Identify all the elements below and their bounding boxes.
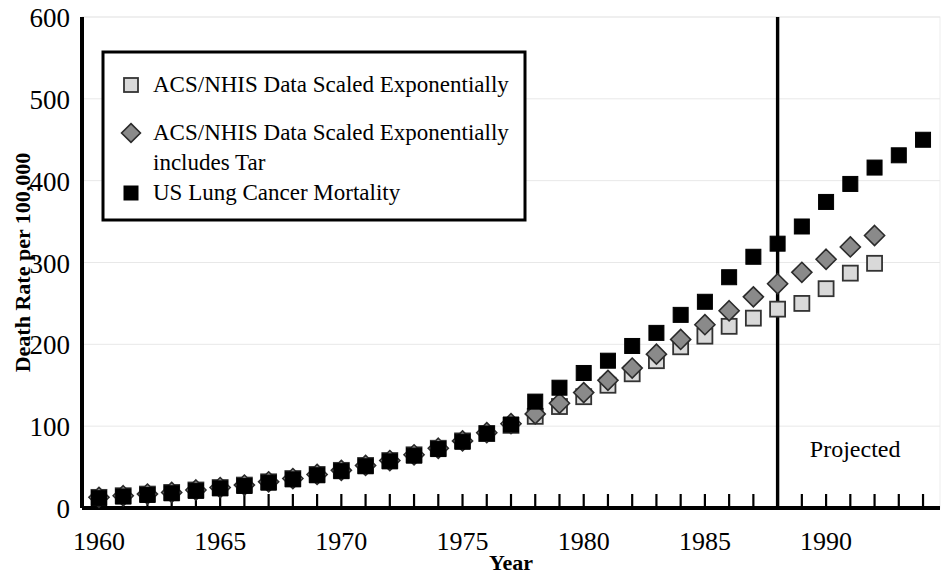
data-point-square bbox=[188, 483, 203, 498]
data-point-square bbox=[479, 426, 494, 441]
x-axis-tick-label: 1965 bbox=[194, 527, 246, 556]
data-point-square bbox=[310, 468, 325, 483]
data-point-square bbox=[261, 475, 276, 490]
scatter-chart: 0100200300400500600Death Rate per 100,00… bbox=[0, 0, 947, 574]
data-point-square bbox=[625, 338, 640, 353]
y-axis-tick-label: 100 bbox=[30, 412, 71, 442]
data-point-square bbox=[431, 442, 446, 457]
y-axis-tick-label: 600 bbox=[30, 3, 71, 33]
data-point-diamond bbox=[768, 274, 788, 294]
data-point-diamond bbox=[719, 301, 739, 321]
x-axis-tick-label: 1975 bbox=[437, 527, 489, 556]
projected-label: Projected bbox=[810, 436, 901, 462]
data-point-square bbox=[649, 325, 664, 340]
x-axis-tick-label: 1990 bbox=[800, 527, 852, 556]
data-point-square bbox=[213, 481, 228, 496]
x-axis-tick-label: 1985 bbox=[679, 527, 731, 556]
y-axis-tick-label: 0 bbox=[57, 494, 71, 524]
x-axis-tick-label: 1970 bbox=[315, 527, 367, 556]
data-point-square bbox=[382, 454, 397, 469]
data-point-square bbox=[891, 148, 906, 163]
x-axis-tick-label: 1980 bbox=[558, 527, 610, 556]
data-point-square bbox=[552, 380, 567, 395]
data-point-diamond bbox=[743, 287, 763, 307]
legend-marker-square bbox=[124, 78, 138, 92]
x-axis-title: Year bbox=[489, 550, 533, 574]
data-point-square bbox=[164, 486, 179, 501]
data-point-square bbox=[334, 464, 349, 479]
y-axis-tick-label: 300 bbox=[30, 249, 71, 279]
legend-label: ACS/NHIS Data Scaled Exponentially bbox=[153, 120, 509, 145]
chart-figure: 0100200300400500600Death Rate per 100,00… bbox=[0, 0, 947, 574]
data-point-square bbox=[576, 365, 591, 380]
data-point-square bbox=[673, 307, 688, 322]
y-axis-tick-label: 500 bbox=[30, 85, 71, 115]
data-point-square bbox=[867, 256, 882, 271]
data-point-square bbox=[455, 434, 470, 449]
data-point-square bbox=[358, 459, 373, 474]
data-point-square bbox=[504, 417, 519, 432]
data-point-square bbox=[722, 270, 737, 285]
legend-label: ACS/NHIS Data Scaled Exponentially bbox=[153, 72, 509, 97]
data-point-square bbox=[600, 353, 615, 368]
data-point-square bbox=[770, 236, 785, 251]
data-point-square bbox=[770, 302, 785, 317]
data-point-diamond bbox=[816, 249, 836, 269]
data-point-square bbox=[916, 132, 931, 147]
data-point-square bbox=[794, 219, 809, 234]
data-point-square bbox=[140, 487, 155, 502]
y-axis-title: Death Rate per 100,000 bbox=[10, 153, 35, 373]
data-point-diamond bbox=[840, 237, 860, 257]
data-point-square bbox=[819, 281, 834, 296]
data-point-square bbox=[528, 394, 543, 409]
data-point-square bbox=[843, 266, 858, 281]
data-point-square bbox=[237, 478, 252, 493]
data-point-diamond bbox=[865, 225, 885, 245]
legend-marker-square bbox=[124, 186, 138, 200]
y-axis-tick-label: 400 bbox=[30, 167, 71, 197]
data-point-diamond bbox=[792, 262, 812, 282]
data-point-square bbox=[819, 194, 834, 209]
data-point-square bbox=[746, 249, 761, 264]
data-point-square bbox=[794, 296, 809, 311]
legend-label-continued: includes Tar bbox=[153, 150, 266, 175]
x-axis-tick-label: 1960 bbox=[73, 527, 125, 556]
data-point-square bbox=[746, 311, 761, 326]
data-point-square bbox=[867, 160, 882, 175]
data-point-square bbox=[91, 491, 106, 506]
data-point-square bbox=[407, 448, 422, 463]
legend-label: US Lung Cancer Mortality bbox=[153, 180, 401, 205]
data-point-square bbox=[116, 489, 131, 504]
data-point-square bbox=[843, 176, 858, 191]
y-axis-tick-label: 200 bbox=[30, 330, 71, 360]
data-point-square bbox=[285, 472, 300, 487]
data-point-square bbox=[697, 294, 712, 309]
